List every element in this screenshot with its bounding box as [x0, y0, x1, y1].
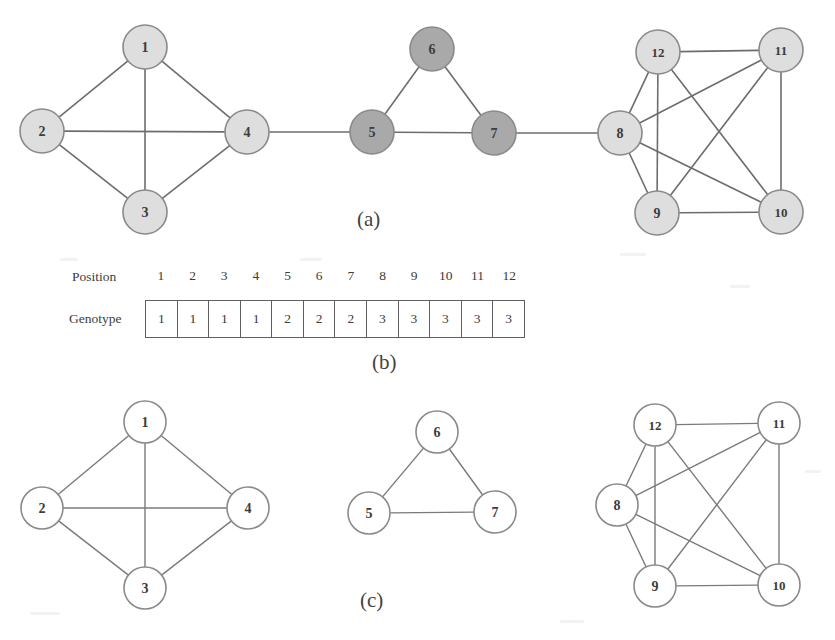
node-10[interactable]: 10: [759, 190, 803, 234]
genotype-cell-6[interactable]: 2: [304, 301, 336, 337]
panel-a-edges: [59, 50, 781, 212]
edge-2-4: [64, 131, 225, 132]
genotype-cell-10[interactable]: 3: [430, 301, 462, 337]
edge-8-12: [629, 72, 648, 113]
edge-2-3: [59, 521, 129, 575]
node-9[interactable]: 9: [635, 191, 679, 235]
node-label-7: 7: [492, 505, 499, 520]
edge-5-7: [394, 132, 472, 133]
node-11[interactable]: 11: [758, 402, 800, 444]
node-5[interactable]: 5: [348, 492, 390, 534]
node-8[interactable]: 8: [598, 111, 642, 155]
node-label-2: 2: [39, 124, 46, 139]
position-label-3: 3: [208, 268, 240, 284]
edge-2-3: [59, 145, 127, 199]
caption-panel-c: (c): [360, 588, 383, 613]
edge-5-6: [383, 448, 424, 497]
node-6[interactable]: 6: [410, 27, 454, 71]
edge-9-12: [657, 74, 658, 191]
node-label-10: 10: [775, 205, 788, 220]
node-label-11: 11: [775, 43, 787, 58]
genotype-cell-1[interactable]: 1: [146, 301, 178, 337]
node-label-3: 3: [142, 205, 149, 220]
node-label-9: 9: [652, 579, 659, 594]
node-label-5: 5: [369, 125, 376, 140]
node-label-2: 2: [39, 501, 46, 516]
figure-root: 123456789101112 123465712118910 Position…: [0, 0, 835, 640]
edge-11-12: [676, 423, 758, 424]
node-label-5: 5: [366, 506, 373, 521]
edge-1-4: [161, 435, 232, 494]
node-9[interactable]: 9: [634, 565, 676, 607]
panel-a-nodes: 123456789101112: [20, 25, 803, 235]
position-label-8: 8: [367, 268, 399, 284]
node-1[interactable]: 1: [123, 25, 167, 69]
genotype-cell-8[interactable]: 3: [367, 301, 399, 337]
edge-8-9: [626, 524, 646, 567]
caption-panel-a: (a): [357, 207, 380, 232]
node-3[interactable]: 3: [124, 567, 166, 609]
position-label-4: 4: [240, 268, 272, 284]
node-1[interactable]: 1: [124, 401, 166, 443]
node-label-10: 10: [773, 578, 786, 593]
position-label-12: 12: [493, 268, 525, 284]
position-label-10: 10: [430, 268, 462, 284]
position-label-11: 11: [462, 268, 494, 284]
position-row: 123456789101112: [145, 268, 525, 288]
edge-1-2: [58, 435, 129, 494]
genotype-cell-3[interactable]: 1: [209, 301, 241, 337]
node-11[interactable]: 11: [759, 28, 803, 72]
node-7[interactable]: 7: [474, 491, 516, 533]
node-label-11: 11: [773, 416, 785, 431]
edge-1-4: [162, 61, 230, 118]
position-label-5: 5: [272, 268, 304, 284]
node-4[interactable]: 4: [227, 487, 269, 529]
node-5[interactable]: 5: [350, 110, 394, 154]
node-label-12: 12: [649, 418, 662, 433]
genotype-cell-11[interactable]: 3: [462, 301, 494, 337]
edge-8-12: [626, 444, 646, 486]
genotype-row-label: Genotype: [69, 311, 121, 327]
node-4[interactable]: 4: [225, 110, 269, 154]
node-8[interactable]: 8: [596, 484, 638, 526]
node-label-6: 6: [434, 425, 441, 440]
node-10[interactable]: 10: [758, 564, 800, 606]
genotype-cell-2[interactable]: 1: [178, 301, 210, 337]
node-label-9: 9: [654, 206, 661, 221]
node-label-8: 8: [614, 498, 621, 513]
position-label-7: 7: [335, 268, 367, 284]
genotype-cell-4[interactable]: 1: [241, 301, 273, 337]
node-label-1: 1: [142, 40, 149, 55]
node-label-8: 8: [617, 126, 624, 141]
edge-6-7: [449, 449, 482, 495]
node-label-6: 6: [429, 42, 436, 57]
edge-3-4: [162, 521, 232, 575]
edge-11-12: [680, 50, 759, 51]
genotype-cell-7[interactable]: 2: [335, 301, 367, 337]
panel-c-edges: [58, 423, 779, 585]
position-label-2: 2: [177, 268, 209, 284]
edge-9-10: [676, 585, 758, 586]
position-label-6: 6: [303, 268, 335, 284]
genotype-cell-9[interactable]: 3: [399, 301, 431, 337]
node-label-7: 7: [491, 126, 498, 141]
genotype-cell-5[interactable]: 2: [272, 301, 304, 337]
node-12[interactable]: 12: [636, 30, 680, 74]
edge-8-9: [629, 153, 648, 193]
node-3[interactable]: 3: [123, 190, 167, 234]
genotype-cell-12[interactable]: 3: [493, 301, 524, 337]
node-2[interactable]: 2: [21, 487, 63, 529]
node-label-12: 12: [652, 45, 665, 60]
caption-panel-b: (b): [372, 350, 397, 375]
node-label-1: 1: [142, 415, 149, 430]
position-label-9: 9: [398, 268, 430, 284]
node-12[interactable]: 12: [634, 404, 676, 446]
panel-c-nodes: 123465712118910: [21, 401, 800, 609]
position-label-1: 1: [145, 268, 177, 284]
node-label-3: 3: [142, 581, 149, 596]
node-7[interactable]: 7: [472, 111, 516, 155]
edge-6-7: [445, 67, 481, 116]
node-6[interactable]: 6: [416, 411, 458, 453]
edge-5-6: [385, 67, 419, 114]
node-2[interactable]: 2: [20, 109, 64, 153]
